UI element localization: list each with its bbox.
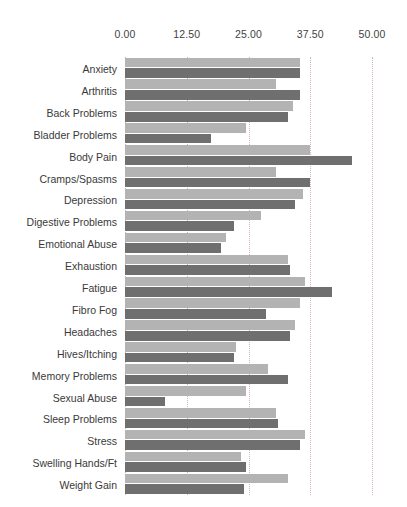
bar-series1 (125, 474, 288, 484)
bar-series1 (125, 58, 300, 68)
bar-row: Weight Gain (0, 473, 407, 497)
category-label-12: Headaches (0, 324, 117, 340)
bar-series2 (125, 462, 246, 472)
bar-row: Body Pain (0, 145, 407, 169)
bar-series1 (125, 277, 305, 287)
bar-series2 (125, 134, 211, 144)
bar-series2 (125, 68, 300, 78)
horizontal-bar-chart: 0.0012.5025.0037.5050.00 AnxietyArthriti… (0, 0, 407, 507)
category-label-17: Stress (0, 433, 117, 449)
bar-series1 (125, 430, 305, 440)
category-label-10: Fatigue (0, 280, 117, 296)
category-label-7: Digestive Problems (0, 214, 117, 230)
bar-row: Back Problems (0, 101, 407, 125)
category-label-14: Memory Problems (0, 368, 117, 384)
category-label-2: Back Problems (0, 105, 117, 121)
bar-series2 (125, 440, 300, 450)
bar-series2 (125, 200, 295, 210)
bar-series1 (125, 255, 288, 265)
bar-series2 (125, 178, 310, 188)
bar-row: Cramps/Spasms (0, 167, 407, 191)
bar-series1 (125, 167, 276, 177)
bar-series2 (125, 243, 221, 253)
bar-series1 (125, 320, 295, 330)
bar-series1 (125, 408, 276, 418)
x-tick-label-1: 12.50 (173, 28, 200, 41)
bar-series2 (125, 221, 234, 231)
x-tick-label-4: 50.00 (359, 28, 386, 41)
bar-row: Headaches (0, 320, 407, 344)
bar-row: Fibro Fog (0, 298, 407, 322)
bar-row: Exhaustion (0, 254, 407, 278)
bar-row: Digestive Problems (0, 210, 407, 234)
category-label-9: Exhaustion (0, 258, 117, 274)
bar-row: Arthritis (0, 79, 407, 103)
bar-series2 (125, 331, 290, 341)
bar-series1 (125, 342, 236, 352)
category-label-1: Arthritis (0, 83, 117, 99)
category-label-5: Cramps/Spasms (0, 171, 117, 187)
bar-rows: AnxietyArthritisBack ProblemsBladder Pro… (0, 57, 407, 495)
bar-series1 (125, 189, 303, 199)
bar-row: Memory Problems (0, 364, 407, 388)
bar-series2 (125, 287, 332, 297)
bar-row: Stress (0, 429, 407, 453)
bar-row: Depression (0, 188, 407, 212)
bar-series2 (125, 419, 278, 429)
category-label-19: Weight Gain (0, 477, 117, 493)
bar-series2 (125, 397, 165, 407)
bar-series1 (125, 298, 300, 308)
bar-row: Bladder Problems (0, 123, 407, 147)
bar-series2 (125, 112, 288, 122)
bar-row: Anxiety (0, 57, 407, 81)
bar-row: Sexual Abuse (0, 386, 407, 410)
bar-series2 (125, 90, 300, 100)
bar-row: Emotional Abuse (0, 232, 407, 256)
category-label-13: Hives/Itching (0, 346, 117, 362)
category-label-6: Depression (0, 192, 117, 208)
category-label-3: Bladder Problems (0, 127, 117, 143)
bar-series1 (125, 123, 246, 133)
bar-series1 (125, 145, 310, 155)
bar-series1 (125, 364, 268, 374)
x-axis-tick-labels: 0.0012.5025.0037.5050.00 (0, 28, 407, 44)
category-label-16: Sleep Problems (0, 411, 117, 427)
x-tick-label-0: 0.00 (115, 28, 136, 41)
bar-series2 (125, 375, 288, 385)
category-label-0: Anxiety (0, 61, 117, 77)
bar-series1 (125, 79, 276, 89)
bar-row: Fatigue (0, 276, 407, 300)
bar-series1 (125, 233, 226, 243)
bar-series1 (125, 101, 293, 111)
bar-series2 (125, 156, 352, 166)
bar-series2 (125, 309, 266, 319)
category-label-4: Body Pain (0, 149, 117, 165)
x-tick-label-2: 25.00 (235, 28, 262, 41)
bar-row: Hives/Itching (0, 342, 407, 366)
bar-row: Sleep Problems (0, 407, 407, 431)
category-label-18: Swelling Hands/Ft (0, 455, 117, 471)
bar-row: Swelling Hands/Ft (0, 451, 407, 475)
x-tick-label-3: 37.50 (297, 28, 324, 41)
category-label-11: Fibro Fog (0, 302, 117, 318)
bar-series1 (125, 211, 261, 221)
bar-series2 (125, 265, 290, 275)
category-label-8: Emotional Abuse (0, 236, 117, 252)
bar-series1 (125, 452, 241, 462)
bar-series2 (125, 353, 234, 363)
category-label-15: Sexual Abuse (0, 390, 117, 406)
bar-series1 (125, 386, 246, 396)
bar-series2 (125, 484, 244, 494)
